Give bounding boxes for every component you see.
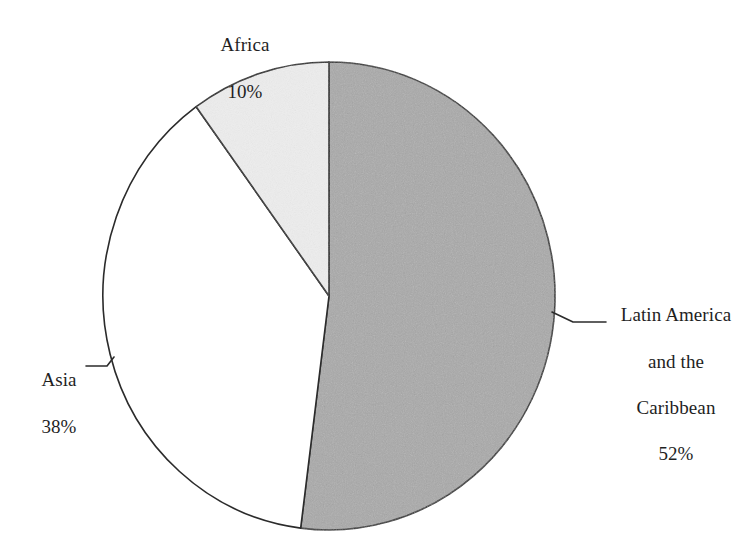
pie-label-latin-america-value: 52% bbox=[603, 442, 749, 465]
pie-label-latin-america-line2: and the bbox=[603, 350, 749, 373]
pie-chart-figure: Africa 10% Asia 38% Latin America and th… bbox=[0, 0, 753, 548]
pie-label-latin-america-line3: Caribbean bbox=[603, 396, 749, 419]
pie-label-latin-america-line1: Latin America bbox=[603, 303, 749, 326]
pie-label-asia-value: 38% bbox=[8, 415, 110, 438]
leader-line-latin-america bbox=[552, 312, 606, 322]
pie-slices bbox=[103, 62, 555, 530]
pie-label-africa: Africa 10% bbox=[175, 10, 315, 126]
pie-label-africa-name: Africa bbox=[175, 33, 315, 56]
pie-label-asia-name: Asia bbox=[8, 368, 110, 391]
pie-label-asia: Asia 38% bbox=[8, 345, 110, 461]
pie-label-latin-america: Latin America and the Caribbean 52% bbox=[603, 280, 749, 489]
pie-label-africa-value: 10% bbox=[175, 80, 315, 103]
pie-slice-latin-america[interactable] bbox=[301, 62, 555, 530]
